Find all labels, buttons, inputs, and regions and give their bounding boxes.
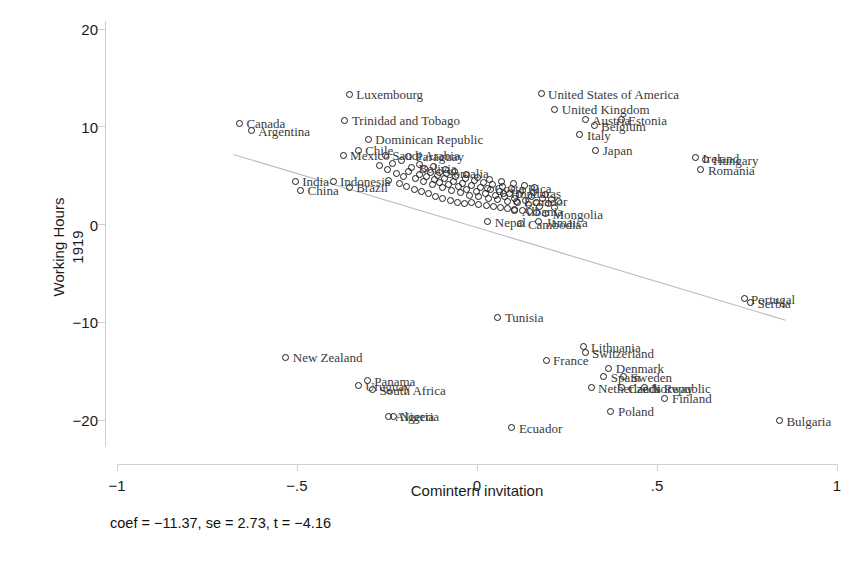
- data-point-label: Argentina: [258, 124, 310, 137]
- data-point-label: China: [308, 184, 339, 197]
- data-point-label: Italy: [587, 128, 611, 141]
- data-point-marker: [692, 154, 699, 161]
- y-tick-label: 20: [40, 21, 98, 38]
- data-point-marker: [447, 197, 454, 204]
- data-point-label: Serbia: [758, 296, 791, 309]
- data-point-label: New Zealand: [293, 351, 363, 364]
- data-point-marker: [385, 413, 392, 420]
- data-point-label: Luxembourg: [356, 88, 423, 101]
- data-point-label: Romania: [708, 163, 755, 176]
- data-point-label: Switzerland: [592, 346, 654, 359]
- scatter-plot: LuxembourgUnited States of AmericaUnited…: [0, 0, 863, 561]
- data-point-marker: [346, 91, 353, 98]
- data-point-marker: [355, 382, 362, 389]
- data-point-label: Trinidad and Tobago: [352, 114, 460, 127]
- data-point-marker: [411, 186, 418, 193]
- data-point-marker: [551, 106, 558, 113]
- data-point-marker: [432, 193, 439, 200]
- axes-group: [98, 21, 837, 471]
- data-point-label: France: [553, 354, 588, 367]
- data-point-label: Bulgaria: [786, 414, 831, 427]
- data-point-marker: [538, 90, 545, 97]
- data-point-marker: [393, 170, 400, 177]
- data-point-label: Somalia: [446, 166, 489, 179]
- data-point-label: Algeria: [395, 410, 434, 423]
- data-point-label: Mexico: [350, 149, 390, 162]
- data-point-marker: [494, 196, 501, 203]
- y-tick-label: −20: [40, 412, 98, 429]
- y-axis-title: Working Hours 1919: [49, 152, 87, 342]
- data-point-marker: [485, 195, 492, 202]
- data-point-marker: [588, 384, 595, 391]
- data-point-label: United States of America: [548, 87, 679, 100]
- data-point-marker: [439, 195, 446, 202]
- data-point-marker: [466, 192, 473, 199]
- data-point-marker: [454, 199, 461, 206]
- data-point-marker: [483, 202, 490, 209]
- data-point-label: Ecuador: [519, 421, 562, 434]
- data-point-marker: [543, 357, 550, 364]
- data-point-marker: [582, 116, 589, 123]
- data-point-marker: [340, 152, 347, 159]
- data-point-marker: [592, 147, 599, 154]
- data-point-label: Brazil: [356, 181, 388, 194]
- data-point-marker: [236, 120, 243, 127]
- data-point-marker: [396, 180, 403, 187]
- data-point-marker: [292, 178, 299, 185]
- data-point-label: Finland: [672, 392, 712, 405]
- data-point-marker: [425, 190, 432, 197]
- x-axis-title: Comintern invitation: [117, 482, 837, 499]
- data-point-label: Jamaica: [546, 215, 588, 228]
- data-point-label: Tunisia: [505, 311, 544, 324]
- data-point-label: Poland: [618, 405, 654, 418]
- regression-annotation: coef = −11.37, se = 2.73, t = −4.16: [110, 515, 331, 531]
- data-point-marker: [384, 166, 391, 173]
- y-tick-label: 10: [40, 118, 98, 135]
- data-point-marker: [448, 187, 455, 194]
- y-axis-title-line2: 1919: [68, 152, 87, 342]
- data-point-label: Japan: [603, 144, 633, 157]
- y-axis-title-line1: Working Hours: [49, 152, 68, 342]
- data-point-label: South Africa: [380, 383, 446, 396]
- plot-canvas: [0, 0, 863, 561]
- data-point-marker: [418, 188, 425, 195]
